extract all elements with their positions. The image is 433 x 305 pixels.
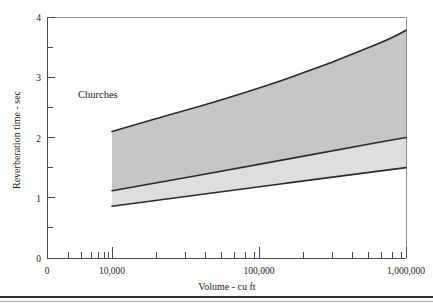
- y-tick-label-4: 4: [36, 13, 41, 23]
- x-tick-label-100000: 100,000: [244, 266, 275, 276]
- x-minor-ticks: [68, 252, 402, 258]
- churches-label: Churches: [78, 89, 118, 100]
- y-tick-label-2: 2: [36, 134, 41, 144]
- chart-canvas: 4 3 2 1 0 0 10,000 100,000 1,000,000 Vol…: [0, 0, 433, 305]
- y-axis-title: Reverberation time - sec: [11, 90, 22, 189]
- x-tick-label-1000000: 1,000,000: [387, 266, 425, 276]
- x-axis-title: Volume - cu ft: [198, 281, 256, 292]
- y-tick-label-0: 0: [36, 254, 41, 264]
- y-tick-label-3: 3: [36, 73, 41, 83]
- x-tick-label-origin: 0: [45, 266, 50, 276]
- reverberation-time-chart: 4 3 2 1 0 0 10,000 100,000 1,000,000 Vol…: [0, 0, 433, 305]
- x-tick-label-10000: 10,000: [99, 266, 125, 276]
- y-tick-label-1: 1: [36, 194, 41, 204]
- y-major-ticks: [47, 17, 55, 258]
